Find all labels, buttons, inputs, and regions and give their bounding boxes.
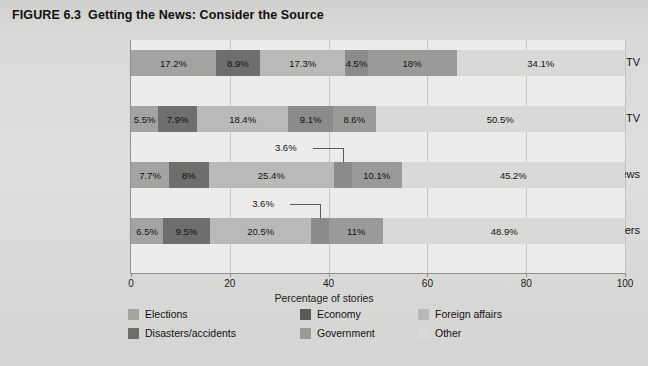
bar-segment-label: 8.9% [227, 58, 249, 69]
legend-swatch-icon [418, 328, 429, 339]
bar-segment-label: 20.5% [247, 226, 274, 237]
bar-segment-label: 50.5% [487, 114, 514, 125]
x-tick-label-80: 80 [506, 278, 546, 289]
legend-item-other[interactable]: Other [418, 327, 461, 339]
x-tick-label-40: 40 [309, 278, 349, 289]
bar-segment[interactable]: 25.4% [209, 162, 334, 188]
bar-segment-label: 7.9% [167, 114, 189, 125]
tick-mark-20 [230, 273, 231, 277]
bar-segment[interactable]: 48.9% [383, 218, 625, 244]
bar-segment[interactable]: 11% [329, 218, 383, 244]
bar-segment-label: 6.5% [136, 226, 158, 237]
bar-segment[interactable]: 9.1% [288, 106, 333, 132]
bar-segment-label: 5.5% [134, 114, 156, 125]
legend-label: Government [317, 327, 375, 339]
legend-swatch-icon [418, 309, 429, 320]
legend-swatch-icon [128, 309, 139, 320]
bar-segment[interactable]: 8.6% [333, 106, 375, 132]
figure-number: FIGURE 6.3 [12, 8, 81, 22]
bar-segment[interactable]: 17.3% [260, 50, 345, 76]
x-tick-label-100: 100 [605, 278, 645, 289]
bar-segment[interactable]: 20.5% [210, 218, 311, 244]
tick-mark-0 [131, 273, 132, 277]
bar-row: 6.5%9.5%20.5%11%48.9% [131, 218, 625, 244]
bar-segment[interactable]: 45.2% [402, 162, 625, 188]
bar-segment-label: 25.4% [258, 170, 285, 181]
x-tick-label-20: 20 [210, 278, 250, 289]
bar-segment-callout-label: 3.6% [275, 142, 297, 153]
bar-segment[interactable]: 17.2% [131, 50, 216, 76]
tick-mark-60 [427, 273, 428, 277]
bar-segment[interactable] [334, 162, 352, 188]
x-tick-label-0: 0 [111, 278, 151, 289]
bar-row: 17.2%8.9%17.3%4.5%18%34.1% [131, 50, 625, 76]
bar-segment-label: 18.4% [229, 114, 256, 125]
bar-segment[interactable]: 9.5% [163, 218, 210, 244]
bar-segment-label: 7.7% [139, 170, 161, 181]
bar-segment[interactable]: 4.5% [345, 50, 367, 76]
legend-swatch-icon [300, 328, 311, 339]
x-axis-title: Percentage of stories [0, 292, 648, 304]
legend-label: Foreign affairs [435, 308, 502, 320]
bar-segment[interactable]: 18.4% [197, 106, 288, 132]
bar-segment-label: 8% [182, 170, 196, 181]
page-title: FIGURE 6.3Getting the News: Consider the… [12, 8, 324, 22]
x-axis-line [130, 273, 626, 274]
bar-segment-callout-label: 3.6% [252, 198, 274, 209]
tick-mark-80 [526, 273, 527, 277]
bar-segment-label: 17.3% [289, 58, 316, 69]
chart-legend: ElectionsEconomyForeign affairs Disaster… [128, 308, 548, 346]
bar-segment[interactable]: 34.1% [457, 50, 625, 76]
bar-segment[interactable]: 8% [169, 162, 209, 188]
legend-label: Elections [145, 308, 188, 320]
bar-row: 5.5%7.9%18.4%9.1%8.6%50.5% [131, 106, 625, 132]
legend-label: Disasters/accidents [145, 327, 236, 339]
bar-segment-label: 48.9% [491, 226, 518, 237]
bar-segment-label: 9.1% [300, 114, 322, 125]
bar-segment-label: 45.2% [500, 170, 527, 181]
bar-segment[interactable]: 5.5% [131, 106, 158, 132]
legend-item-economy[interactable]: Economy [300, 308, 361, 320]
legend-swatch-icon [128, 328, 139, 339]
callout-leader-horizontal [313, 148, 343, 149]
figure-container: FIGURE 6.3Getting the News: Consider the… [0, 0, 648, 366]
bar-segment-label: 11% [347, 226, 365, 237]
bar-segment[interactable]: 50.5% [376, 106, 625, 132]
callout-leader-horizontal [290, 204, 320, 205]
legend-row-2: Disasters/accidentsGovernmentOther [128, 327, 548, 346]
legend-swatch-icon [300, 309, 311, 320]
bar-segment-label: 18% [403, 58, 422, 69]
legend-row-1: ElectionsEconomyForeign affairs [128, 308, 548, 327]
legend-item-elections[interactable]: Elections [128, 308, 188, 320]
legend-item-disasters-accidents[interactable]: Disasters/accidents [128, 327, 236, 339]
bar-segment[interactable]: 6.5% [131, 218, 163, 244]
bar-segment-label: 17.2% [160, 58, 187, 69]
bar-segment[interactable]: 8.9% [216, 50, 260, 76]
legend-label: Other [435, 327, 461, 339]
bar-segment[interactable]: 7.9% [158, 106, 197, 132]
figure-title-text: Getting the News: Consider the Source [88, 8, 324, 22]
bar-segment[interactable]: 7.7% [131, 162, 169, 188]
bar-row: 7.7%8%25.4%10.1%45.2% [131, 162, 625, 188]
legend-item-foreign-affairs[interactable]: Foreign affairs [418, 308, 502, 320]
x-tick-label-60: 60 [407, 278, 447, 289]
bar-segment-label: 10.1% [363, 170, 390, 181]
tick-mark-100 [625, 273, 626, 277]
bar-segment[interactable] [311, 218, 329, 244]
legend-item-government[interactable]: Government [300, 327, 375, 339]
bar-segment-label: 9.5% [176, 226, 198, 237]
bar-segment[interactable]: 10.1% [352, 162, 402, 188]
bar-segment[interactable]: 18% [368, 50, 457, 76]
bar-segment-label: 8.6% [343, 114, 365, 125]
bar-segment-label: 4.5% [346, 58, 368, 69]
gridline-100 [625, 40, 626, 273]
tick-mark-40 [329, 273, 330, 277]
legend-label: Economy [317, 308, 361, 320]
bar-segment-label: 34.1% [527, 58, 554, 69]
